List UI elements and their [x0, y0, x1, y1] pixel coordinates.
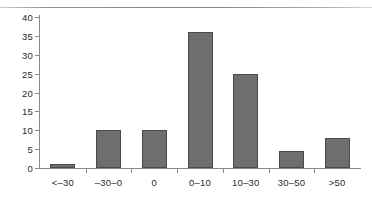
y-axis-tick-label: 10 [22, 125, 33, 136]
bar [96, 130, 121, 168]
bar [233, 74, 258, 168]
bar [188, 32, 213, 168]
y-axis-tick-label: 0 [28, 163, 33, 174]
x-axis-tick-label: 10–30 [232, 177, 259, 188]
x-axis-tick-label: >50 [329, 177, 346, 188]
y-axis-tick-mark [35, 93, 40, 94]
bar [142, 130, 167, 168]
x-axis-tick-label: 0–10 [189, 177, 211, 188]
y-axis-tick-mark [35, 168, 40, 169]
scan-artifact-line [0, 7, 372, 8]
y-axis-tick-mark [35, 130, 40, 131]
bar [325, 138, 350, 168]
y-axis-tick-label: 35 [22, 30, 33, 41]
bar-chart-figure: 0510152025303540 <–30–30–000–1010–3030–5… [0, 0, 372, 204]
y-axis-tick-label: 25 [22, 68, 33, 79]
bar [279, 151, 304, 168]
plot-area: 0510152025303540 [40, 17, 360, 168]
y-axis-tick-label: 5 [28, 144, 33, 155]
x-axis-tick-label: 30–50 [278, 177, 305, 188]
x-axis-tick-mark [177, 169, 178, 173]
y-axis-tick-mark [35, 55, 40, 56]
y-axis-tick-label: 30 [22, 49, 33, 60]
y-axis-tick-mark [35, 17, 40, 18]
y-axis-tick-label: 15 [22, 106, 33, 117]
x-axis-tick-mark [86, 169, 87, 173]
x-axis-tick-label: <–30 [52, 177, 74, 188]
x-axis-tick-mark [223, 169, 224, 173]
y-axis-tick-mark [35, 149, 40, 150]
y-axis-tick-mark [35, 74, 40, 75]
x-axis-tick-mark [131, 169, 132, 173]
bar [50, 164, 75, 168]
y-axis-tick-mark [35, 36, 40, 37]
y-axis-tick-label: 20 [22, 87, 33, 98]
x-axis-tick-mark [314, 169, 315, 173]
x-axis-tick-label: –30–0 [95, 177, 122, 188]
x-axis-tick-mark [269, 169, 270, 173]
x-axis-line [39, 168, 361, 169]
y-axis-tick-mark [35, 111, 40, 112]
y-axis-tick-label: 40 [22, 12, 33, 23]
x-axis-tick-label: 0 [152, 177, 157, 188]
